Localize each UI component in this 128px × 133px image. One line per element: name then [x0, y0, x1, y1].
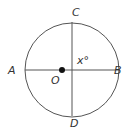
- label-d: D: [70, 117, 78, 130]
- label-angle-x: x°: [76, 54, 89, 67]
- circle-diagram: C D A B O x°: [0, 0, 128, 133]
- center-point-o: [59, 67, 65, 73]
- label-b: B: [114, 64, 122, 77]
- label-a: A: [7, 64, 16, 77]
- label-o: O: [51, 74, 60, 87]
- label-c: C: [72, 6, 80, 19]
